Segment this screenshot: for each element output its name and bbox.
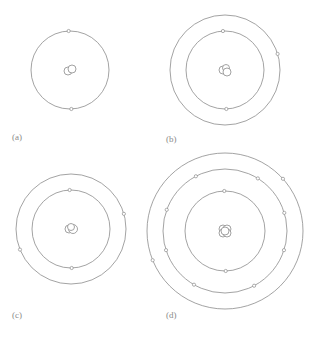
electron-icon (276, 52, 279, 55)
electron-icon (194, 175, 197, 178)
panel-label-a: (a) (12, 132, 22, 142)
electron-icon (68, 188, 71, 191)
electron-icon (283, 211, 286, 214)
nucleus-icon (219, 225, 231, 237)
nucleus-icon (219, 65, 231, 77)
atom-panel-d (147, 153, 303, 309)
electron-icon (281, 177, 284, 180)
electron-icon (225, 107, 228, 110)
electron-icon (224, 269, 227, 272)
electron-icon (282, 249, 285, 252)
electron-icon (70, 266, 73, 269)
atom-panel-c (16, 174, 126, 284)
electron-icon (122, 212, 125, 215)
electron-icon (192, 283, 195, 286)
panel-label-b: (b) (166, 134, 177, 144)
electron-icon (18, 248, 21, 251)
electron-icon (165, 208, 168, 211)
panel-label-c: (c) (12, 310, 22, 320)
electron-icon (253, 284, 256, 287)
electron-icon (223, 189, 226, 192)
electron-icon (70, 107, 73, 110)
electron-icon (221, 29, 224, 32)
electron-icon (67, 29, 70, 32)
nucleus-icon (64, 65, 76, 75)
electron-icon (164, 249, 167, 252)
panel-label-d: (d) (166, 310, 177, 320)
atom-panel-a (31, 29, 109, 110)
atom-panel-b (170, 15, 280, 125)
diagram-canvas (0, 0, 314, 337)
atomic-shell-diagram-figure: (a) (b) (c) (d) (0, 0, 314, 337)
electron-icon (151, 259, 154, 262)
nucleus-icon (65, 224, 78, 234)
electron-icon (256, 177, 259, 180)
